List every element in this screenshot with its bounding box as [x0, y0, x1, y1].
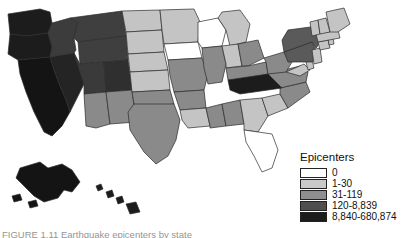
legend-entry: 1-30 — [296, 178, 400, 189]
state-wa — [8, 9, 52, 36]
state-hi — [96, 184, 103, 191]
state-id — [48, 18, 78, 57]
choropleth-map-figure: Epicenters 01-3031-119120-8,8398,840-680… — [0, 0, 401, 238]
state-ia — [164, 42, 202, 60]
legend-entry: 8,840-680,874 — [296, 211, 400, 222]
figure-page: Epicenters 01-3031-119120-8,8398,840-680… — [0, 0, 401, 238]
legend-swatch — [300, 179, 327, 189]
legend-label: 8,840-680,874 — [332, 212, 397, 222]
state-ak — [16, 162, 80, 202]
state-ks — [130, 70, 170, 92]
legend-swatch — [300, 190, 327, 200]
state-fl — [244, 130, 278, 172]
state-hi — [126, 202, 140, 214]
state-nj — [312, 48, 322, 64]
state-tx — [128, 104, 180, 164]
state-hi — [106, 190, 114, 198]
legend-swatch — [300, 201, 327, 211]
state-ak — [28, 200, 38, 208]
legend-label: 0 — [332, 168, 338, 178]
legend-swatch — [300, 212, 327, 222]
legend-entry: 120-8,839 — [296, 200, 400, 211]
legend-entry: 0 — [296, 167, 400, 178]
legend-entry: 31-119 — [296, 189, 400, 200]
state-sd — [126, 30, 164, 54]
state-oh — [238, 40, 264, 66]
legend-label: 1-30 — [332, 179, 352, 189]
legend-title: Epicenters — [300, 150, 400, 164]
state-la — [180, 108, 210, 128]
legend-label: 31-119 — [332, 190, 362, 200]
state-me — [326, 8, 350, 32]
legend-swatch — [300, 168, 327, 178]
state-ak — [12, 194, 22, 202]
legend-entry-list: 01-3031-119120-8,8398,840-680,874 — [296, 167, 400, 222]
legend-label: 120-8,839 — [332, 201, 377, 211]
state-hi — [116, 196, 124, 204]
figure-caption-text: FIGURE 1.11 Earthquake epicenters by sta… — [2, 229, 398, 238]
map-legend: Epicenters 01-3031-119120-8,8398,840-680… — [296, 150, 400, 222]
state-nd — [122, 10, 162, 32]
state-az — [84, 92, 110, 128]
state-or — [8, 33, 52, 60]
figure-caption: FIGURE 1.11 Earthquake epicenters by sta… — [2, 229, 398, 238]
state-co — [104, 60, 132, 92]
state-ne — [128, 52, 168, 72]
state-ar — [174, 90, 206, 110]
state-mn — [160, 9, 200, 44]
state-mo — [168, 58, 208, 92]
